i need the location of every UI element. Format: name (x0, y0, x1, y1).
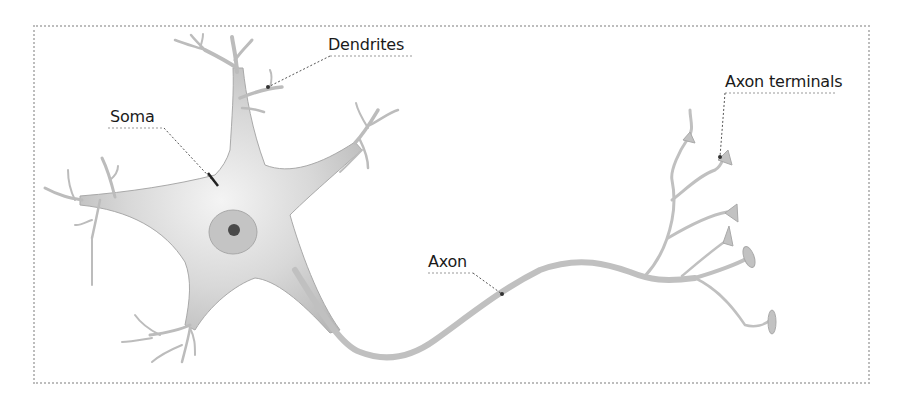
label-axon-terminals: Axon terminals (725, 72, 842, 91)
label-axon: Axon (428, 252, 467, 271)
label-soma: Soma (110, 107, 155, 126)
axon-shape (295, 110, 770, 357)
neuron-illustration (0, 0, 903, 403)
nucleus-shape (209, 210, 257, 254)
label-dendrites: Dendrites (328, 35, 404, 54)
